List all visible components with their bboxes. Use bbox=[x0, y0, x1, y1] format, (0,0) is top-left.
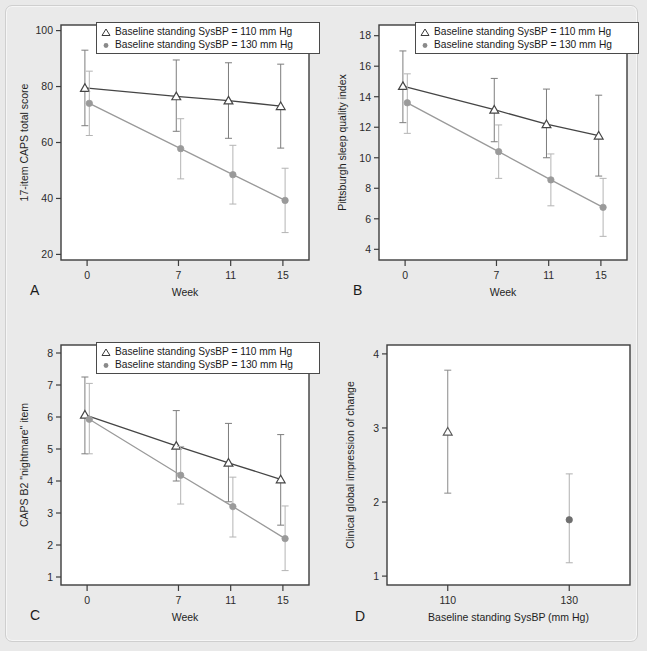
legend-row-110: Baseline standing SysBP = 110 mm Hg bbox=[101, 25, 314, 38]
y-tick-label: 4 bbox=[365, 243, 371, 255]
x-tick-label: 15 bbox=[595, 269, 607, 281]
x-tick-label: 7 bbox=[176, 594, 182, 606]
y-tick-label: 12 bbox=[359, 121, 371, 133]
data-point-marker bbox=[495, 148, 501, 154]
x-tick-label: 0 bbox=[84, 594, 90, 606]
data-point-marker bbox=[566, 517, 572, 523]
x-axis-title: Week bbox=[172, 286, 199, 298]
y-tick-label: 5 bbox=[47, 443, 53, 455]
legend-row-130: Baseline standing SysBP = 130 mm Hg bbox=[101, 358, 314, 371]
y-tick-label: 100 bbox=[35, 24, 53, 36]
panel-d: 1234110130Baseline standing SysBP (mm Hg… bbox=[337, 332, 640, 637]
data-point-marker bbox=[600, 204, 606, 210]
x-tick-label: 15 bbox=[277, 594, 289, 606]
y-tick-label: 3 bbox=[47, 507, 53, 519]
y-axis-title: 17-item CAPS total score bbox=[18, 83, 30, 201]
data-point-marker bbox=[230, 171, 236, 177]
y-tick-label: 8 bbox=[47, 347, 53, 359]
x-tick-label: 0 bbox=[84, 269, 90, 281]
panel-b: 4681012141618071115WeekPittsburgh sleep … bbox=[337, 12, 640, 312]
panel-c-canvas: 12345678071115WeekCAPS B2 "nightmare" it… bbox=[14, 332, 324, 637]
legend-row-110: Baseline standing SysBP = 110 mm Hg bbox=[420, 25, 633, 38]
y-tick-label: 2 bbox=[373, 496, 379, 508]
x-axis-title: Baseline standing SysBP (mm Hg) bbox=[428, 611, 589, 623]
legend-label-110: Baseline standing SysBP = 110 mm Hg bbox=[115, 26, 292, 37]
y-tick-label: 60 bbox=[41, 136, 53, 148]
plot-frame bbox=[61, 25, 309, 260]
y-tick-label: 7 bbox=[47, 379, 53, 391]
plot-frame bbox=[61, 345, 309, 585]
x-tick-label: 15 bbox=[277, 269, 289, 281]
y-tick-label: 80 bbox=[41, 80, 53, 92]
panel-a-legend: Baseline standing SysBP = 110 mm Hg Base… bbox=[96, 22, 320, 54]
x-axis-title: Week bbox=[490, 286, 517, 298]
panel-a-canvas: 20406080100071115Week17-item CAPS total … bbox=[14, 12, 324, 312]
panel-b-legend: Baseline standing SysBP = 110 mm Hg Base… bbox=[415, 22, 639, 54]
panel-d-letter: D bbox=[355, 608, 365, 624]
y-tick-label: 18 bbox=[359, 29, 371, 41]
y-tick-label: 6 bbox=[47, 411, 53, 423]
y-axis-title: CAPS B2 "nightmare" item bbox=[18, 403, 30, 527]
panel-c-letter: C bbox=[30, 607, 40, 623]
data-point-marker bbox=[230, 503, 236, 509]
y-tick-label: 10 bbox=[359, 152, 371, 164]
panel-d-canvas: 1234110130Baseline standing SysBP (mm Hg… bbox=[337, 332, 640, 637]
open-triangle-icon bbox=[101, 347, 111, 357]
data-point-marker bbox=[177, 472, 183, 478]
y-tick-label: 40 bbox=[41, 192, 53, 204]
open-triangle-icon bbox=[101, 27, 111, 37]
data-point-marker bbox=[404, 100, 410, 106]
open-triangle-icon bbox=[420, 27, 430, 37]
x-tick-label: 7 bbox=[494, 269, 500, 281]
y-tick-label: 14 bbox=[359, 91, 371, 103]
legend-row-130: Baseline standing SysBP = 130 mm Hg bbox=[101, 38, 314, 51]
x-tick-label: 130 bbox=[560, 594, 578, 606]
panel-a: 20406080100071115Week17-item CAPS total … bbox=[14, 12, 324, 312]
legend-row-130: Baseline standing SysBP = 130 mm Hg bbox=[420, 38, 633, 51]
filled-circle-icon bbox=[420, 40, 430, 50]
legend-label-130: Baseline standing SysBP = 130 mm Hg bbox=[115, 359, 293, 370]
x-axis-title: Week bbox=[172, 611, 199, 623]
legend-label-130: Baseline standing SysBP = 130 mm Hg bbox=[115, 39, 293, 50]
y-tick-label: 16 bbox=[359, 60, 371, 72]
y-tick-label: 2 bbox=[47, 539, 53, 551]
y-tick-label: 6 bbox=[365, 213, 371, 225]
x-tick-label: 110 bbox=[439, 594, 456, 606]
data-point-marker bbox=[282, 535, 288, 541]
y-tick-label: 1 bbox=[47, 571, 53, 583]
y-tick-label: 1 bbox=[373, 570, 379, 582]
legend-label-130: Baseline standing SysBP = 130 mm Hg bbox=[434, 39, 612, 50]
y-axis-title: Pittsburgh sleep quality index bbox=[336, 73, 348, 210]
data-point-marker bbox=[86, 416, 92, 422]
y-tick-label: 3 bbox=[373, 422, 379, 434]
legend-label-110: Baseline standing SysBP = 110 mm Hg bbox=[434, 26, 611, 37]
panel-c: 12345678071115WeekCAPS B2 "nightmare" it… bbox=[14, 332, 324, 637]
panel-a-letter: A bbox=[30, 282, 39, 298]
plot-frame bbox=[387, 345, 630, 585]
y-tick-label: 8 bbox=[365, 182, 371, 194]
x-tick-label: 11 bbox=[543, 269, 554, 281]
x-tick-label: 7 bbox=[176, 269, 182, 281]
data-point-marker bbox=[282, 197, 288, 203]
legend-label-110: Baseline standing SysBP = 110 mm Hg bbox=[115, 346, 292, 357]
filled-circle-icon bbox=[101, 360, 111, 370]
filled-circle-icon bbox=[101, 40, 111, 50]
x-tick-label: 11 bbox=[225, 269, 236, 281]
y-tick-label: 4 bbox=[47, 475, 53, 487]
y-tick-label: 4 bbox=[373, 348, 379, 360]
data-point-marker bbox=[177, 145, 183, 151]
panel-c-legend: Baseline standing SysBP = 110 mm Hg Base… bbox=[96, 342, 320, 374]
y-axis-title: Clinical global impression of change bbox=[344, 381, 356, 549]
x-tick-label: 0 bbox=[402, 269, 408, 281]
plot-frame bbox=[379, 25, 627, 260]
y-tick-label: 20 bbox=[41, 248, 53, 260]
panel-b-letter: B bbox=[353, 282, 362, 298]
data-point-marker bbox=[86, 100, 92, 106]
data-point-marker bbox=[548, 177, 554, 183]
panel-b-canvas: 4681012141618071115WeekPittsburgh sleep … bbox=[337, 12, 640, 312]
figure-root: 20406080100071115Week17-item CAPS total … bbox=[0, 0, 647, 651]
legend-row-110: Baseline standing SysBP = 110 mm Hg bbox=[101, 345, 314, 358]
x-tick-label: 11 bbox=[225, 594, 236, 606]
